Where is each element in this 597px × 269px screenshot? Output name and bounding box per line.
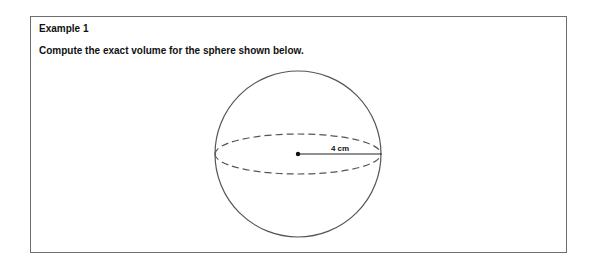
radius-label: 4 cm [331,144,349,153]
sphere-figure: 4 cm [0,0,597,269]
equator-back-dashed [215,134,381,154]
center-point [296,152,300,156]
equator-front-dashed [215,154,381,174]
